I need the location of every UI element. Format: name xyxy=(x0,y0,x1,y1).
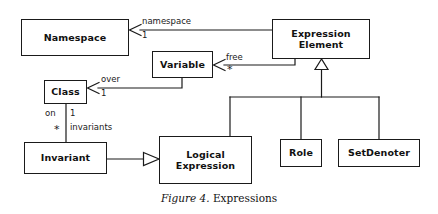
class-name-expression-element: Expression Element xyxy=(291,28,350,51)
class-name-variable: Variable xyxy=(160,59,205,71)
multiplicity-label-namespace: 1 xyxy=(142,31,147,40)
class-box-set-denoter[interactable]: SetDenoter xyxy=(338,139,420,167)
class-box-role[interactable]: Role xyxy=(280,139,322,167)
over-arrowhead xyxy=(88,83,100,94)
figure-caption-label: Figure 4. xyxy=(161,192,210,204)
multiplicity-label-over: 1 xyxy=(101,89,106,98)
free-arrowhead xyxy=(214,60,226,71)
class-name-class: Class xyxy=(51,86,79,98)
class-box-expression-element[interactable]: Expression Element xyxy=(272,19,370,59)
figure-caption: Figure 4. Expressions xyxy=(0,192,438,204)
association-label-free: free xyxy=(226,53,243,62)
figure-page: Namespace Expression Element Variable Cl… xyxy=(0,0,438,214)
association-label-invariants: invariants xyxy=(70,123,112,132)
association-label-over: over xyxy=(101,75,120,84)
multiplicity-label-on: 1 xyxy=(70,109,75,118)
class-name-logical-expression: Logical Expression xyxy=(176,149,235,172)
class-box-class[interactable]: Class xyxy=(44,80,87,104)
class-name-set-denoter: SetDenoter xyxy=(348,147,410,159)
class-box-logical-expression[interactable]: Logical Expression xyxy=(159,136,252,184)
generalization-triangle-expression-element xyxy=(315,59,328,70)
generalization-triangle-logical-expression xyxy=(144,153,160,166)
multiplicity-label-invariants: * xyxy=(54,127,60,133)
class-name-role: Role xyxy=(289,147,313,159)
class-name-invariant: Invariant xyxy=(41,152,90,164)
class-box-namespace[interactable]: Namespace xyxy=(21,19,129,56)
association-label-namespace: namespace xyxy=(142,17,191,26)
class-box-variable[interactable]: Variable xyxy=(152,51,213,78)
figure-caption-text: Expressions xyxy=(213,192,277,204)
namespace-arrowhead xyxy=(130,25,142,36)
class-name-namespace: Namespace xyxy=(44,32,107,44)
multiplicity-label-free: * xyxy=(227,67,233,73)
class-box-invariant[interactable]: Invariant xyxy=(24,142,107,174)
association-label-on: on xyxy=(45,109,56,118)
